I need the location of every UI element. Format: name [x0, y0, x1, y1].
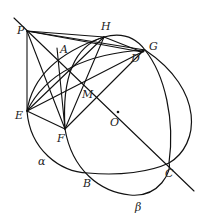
label-alpha: α — [38, 155, 46, 168]
label-H: H — [100, 20, 111, 33]
label-O: O — [110, 116, 119, 129]
diagram-canvas: P H G D A M E F O B C α β — [0, 0, 220, 224]
point-D — [142, 50, 145, 53]
arc-HG — [104, 35, 145, 50]
label-M: M — [81, 88, 94, 101]
label-B: B — [82, 177, 91, 190]
label-C: C — [165, 167, 174, 180]
label-beta: β — [134, 201, 141, 214]
label-P: P — [16, 24, 25, 37]
label-D: D — [130, 52, 140, 65]
segment-PH — [27, 31, 104, 37]
label-A: A — [59, 43, 68, 56]
label-G: G — [149, 40, 158, 53]
geometry-diagram: P H G D A M E F O B C α β — [0, 0, 220, 224]
label-F: F — [56, 132, 65, 145]
point-O — [117, 111, 120, 114]
segment-FH — [65, 37, 104, 129]
segment-ED — [27, 52, 142, 111]
label-E: E — [14, 109, 23, 122]
